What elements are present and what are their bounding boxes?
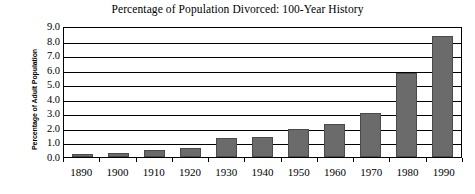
plot-area	[63, 27, 462, 158]
x-axis-tick-label: 1920	[172, 165, 208, 183]
bar	[180, 148, 201, 157]
bar-slot	[425, 28, 461, 157]
bar	[108, 153, 129, 157]
bar-series	[64, 28, 461, 157]
x-axis-tick-label: 1990	[426, 165, 462, 183]
y-axis-tick-label: 0.0	[30, 153, 60, 163]
x-axis-tick-label: 1900	[99, 165, 135, 183]
y-axis-tick-label: 9.0	[30, 22, 60, 32]
y-axis-tick-label: 7.0	[30, 51, 60, 61]
x-axis-tick-mark	[281, 158, 282, 162]
bar-slot	[281, 28, 317, 157]
y-axis-tick-label: 8.0	[30, 37, 60, 47]
bar	[324, 124, 345, 157]
x-axis-tick-label: 1930	[208, 165, 244, 183]
bar	[360, 113, 381, 157]
bar-slot	[136, 28, 172, 157]
x-axis-tick-mark	[462, 158, 463, 162]
bar	[216, 138, 237, 157]
x-axis-tick-mark	[317, 158, 318, 162]
bar-slot	[100, 28, 136, 157]
bar	[288, 129, 309, 157]
chart-title: Percentage of Population Divorced: 100-Y…	[0, 3, 475, 15]
bar	[144, 150, 165, 157]
bar	[432, 36, 453, 157]
x-axis-tick-mark	[426, 158, 427, 162]
x-axis-tick-label: 1910	[136, 165, 172, 183]
bar-slot	[172, 28, 208, 157]
divorce-percentage-bar-chart: Percentage of Population Divorced: 100-Y…	[0, 0, 475, 194]
bar	[396, 73, 417, 157]
bar	[252, 137, 273, 157]
x-axis-tick-label: 1970	[353, 165, 389, 183]
x-axis-tick-mark	[172, 158, 173, 162]
y-axis-tick-label: 3.0	[30, 109, 60, 119]
x-axis-tick-mark	[244, 158, 245, 162]
bar-slot	[64, 28, 100, 157]
x-axis-tick-label: 1950	[281, 165, 317, 183]
x-axis-tick-mark	[99, 158, 100, 162]
x-axis-tick-marks	[63, 158, 462, 163]
y-axis-tick-labels: 0.01.02.03.04.05.06.07.08.09.0	[30, 27, 60, 158]
y-axis-tick-label: 1.0	[30, 138, 60, 148]
y-axis-tick-label: 5.0	[30, 80, 60, 90]
bar-slot	[317, 28, 353, 157]
x-axis-tick-label: 1940	[244, 165, 280, 183]
x-axis-tick-mark	[208, 158, 209, 162]
bar-slot	[244, 28, 280, 157]
bar	[72, 154, 93, 157]
bar-slot	[389, 28, 425, 157]
x-axis-tick-mark	[353, 158, 354, 162]
y-axis-tick-label: 2.0	[30, 124, 60, 134]
bar-slot	[208, 28, 244, 157]
x-axis-tick-label: 1980	[389, 165, 425, 183]
y-axis-tick-label: 6.0	[30, 66, 60, 76]
x-axis-tick-mark	[389, 158, 390, 162]
bar-slot	[353, 28, 389, 157]
x-axis-tick-labels: 1890190019101920193019401950196019701980…	[63, 165, 462, 183]
y-axis-tick-label: 4.0	[30, 95, 60, 105]
x-axis-tick-mark	[63, 158, 64, 162]
x-axis-tick-mark	[136, 158, 137, 162]
x-axis-tick-label: 1960	[317, 165, 353, 183]
x-axis-tick-label: 1890	[63, 165, 99, 183]
